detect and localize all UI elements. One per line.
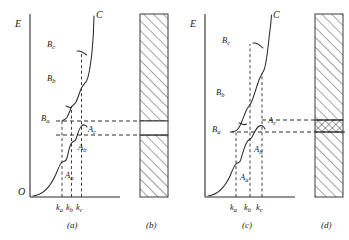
panel-b: (b)	[140, 14, 168, 230]
panel-a-tick-k-b: kb	[66, 202, 74, 213]
panel-c-tick-k-c: kc	[256, 202, 263, 213]
panel-b-forbidden-gap	[140, 121, 168, 135]
panel-d-upper-allowed-band	[315, 14, 343, 120]
panel-c-tick-k-a: ka	[230, 202, 237, 213]
panel-a-label-Ba: Ba	[41, 113, 49, 124]
band-structure-figure: E O Bc Bb Ba Ac Ab Aa C ka kb kc (a)	[0, 0, 349, 240]
panel-d-overlap-region	[315, 120, 343, 132]
panel-b-upper-allowed-band	[140, 14, 168, 121]
panel-c-label-Bb: Bb	[216, 87, 225, 98]
panel-a-origin-label: O	[18, 186, 25, 197]
panel-a-branch-stub-bb	[66, 106, 72, 108]
panel-b-lower-allowed-band	[140, 135, 168, 197]
panel-a-label-Bb: Bb	[47, 73, 56, 84]
panel-a-tick-k-c: kc	[76, 202, 83, 213]
panel-a-y-axis-label: E	[14, 18, 21, 29]
panel-c-branch-stub-bc	[253, 43, 263, 48]
panel-c-label-Bc: Bc	[222, 35, 230, 46]
panel-d-caption: (d)	[321, 220, 332, 230]
panel-a-lower-band-curve	[33, 125, 87, 196]
panel-a-tick-k-a: ka	[56, 202, 63, 213]
panel-d: (d)	[315, 14, 343, 230]
panel-c-tick-k-b: kb	[244, 202, 252, 213]
panel-c-y-axis-label: E	[189, 18, 196, 29]
panel-c-label-C: C	[273, 9, 280, 20]
panel-d-lower-allowed-band	[315, 132, 343, 197]
panel-c-label-Ba: Ba	[212, 124, 220, 135]
figure-container: E O Bc Bb Ba Ac Ab Aa C ka kb kc (a)	[0, 0, 349, 240]
panel-a-label-Ac: Ac	[87, 124, 96, 135]
panel-b-caption: (b)	[146, 220, 157, 230]
panel-c-label-Ac: Ac	[267, 115, 276, 126]
panel-c-lower-band-curve	[208, 126, 265, 196]
panel-a-label-Aa: Aa	[64, 170, 73, 181]
panel-c-upper-band-curve	[232, 15, 272, 132]
panel-a-caption: (a)	[67, 220, 78, 230]
panel-a-label-Bc: Bc	[47, 39, 55, 50]
panel-a-upper-band-curve	[62, 16, 94, 121]
panel-a-label-Ab: Ab	[77, 142, 87, 153]
panel-c-caption: (c)	[242, 220, 252, 230]
panel-a-label-C: C	[96, 9, 103, 20]
panel-c-label-Aa: Aa	[239, 172, 248, 183]
